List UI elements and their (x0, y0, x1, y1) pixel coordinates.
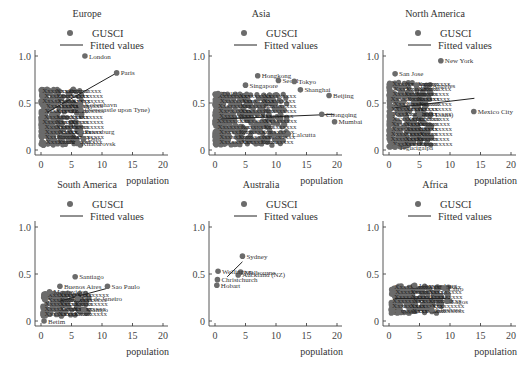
x-tick-label: 15 (302, 159, 312, 170)
y-tick-label: 0 (26, 316, 31, 327)
point-marker-icon (471, 109, 477, 115)
legend: GUSCIFitted values (60, 28, 144, 51)
panel-title: South America (57, 179, 117, 190)
y-tick-label: 1.0 (19, 51, 32, 62)
x-tick-label: 10 (445, 159, 455, 170)
panel-asia: AsiaGUSCIFitted values00.51.005101520pop… (174, 0, 348, 183)
panel-australia: AustraliaGUSCIFitted values00.51.0051015… (174, 171, 348, 354)
x-tick-label: 20 (158, 159, 168, 170)
point-marker-icon (78, 128, 84, 134)
point-label: Betim (48, 318, 66, 326)
legend-label-fitted: Fitted values (264, 211, 318, 222)
point-marker-icon (72, 274, 78, 280)
legend-label-gusci: GUSCI (266, 28, 298, 39)
point-label: Cairo (448, 285, 464, 293)
y-tick-label: 0 (200, 316, 205, 327)
x-tick-label: 5 (417, 330, 422, 341)
y-tick-label: 0 (26, 145, 31, 156)
point-label: Shanghai (304, 86, 330, 94)
panel-title: Africa (422, 179, 448, 190)
y-tick-label: 0 (200, 145, 205, 156)
point-marker-icon (41, 318, 47, 324)
x-tick-label: 5 (417, 159, 422, 170)
point-marker-icon (255, 73, 261, 79)
legend-label-gusci: GUSCI (440, 199, 472, 210)
y-tick-label: 0 (374, 316, 379, 327)
point-marker-icon (414, 82, 420, 88)
point-label: Tokyo (298, 78, 316, 86)
labeled-point: Mexico City (471, 108, 513, 116)
point-label: (St. Louis) (424, 111, 455, 119)
point-marker-icon (114, 70, 120, 76)
x-tick-label: 10 (271, 159, 281, 170)
y-tick-label: 0.5 (19, 269, 32, 280)
labeled-point: Paris (114, 69, 135, 77)
x-tick-label: 20 (332, 159, 342, 170)
x-tick-label: 10 (97, 159, 107, 170)
panel-north-america: North AmericaGUSCIFitted values00.51.005… (348, 0, 522, 183)
panel-africa: AfricaGUSCIFitted values00.51.005101520p… (348, 171, 522, 354)
y-tick-label: 1.0 (193, 51, 206, 62)
x-tick-label: 20 (506, 330, 516, 341)
y-tick-label: 1.0 (19, 222, 32, 233)
point-label: Kinshasa (436, 306, 463, 314)
point-marker-icon (429, 307, 435, 313)
point-marker-icon (441, 285, 447, 291)
point-label: London (89, 53, 111, 61)
y-tick-label: 0.5 (367, 269, 380, 280)
point-label: Calcutta (292, 131, 316, 139)
y-tick-label: 1.0 (367, 222, 380, 233)
point-marker-icon (298, 87, 304, 93)
labeled-point: Santiago (72, 273, 104, 281)
legend: GUSCIFitted values (234, 199, 318, 222)
point-marker-icon (81, 307, 87, 313)
point-marker-icon (78, 107, 84, 113)
point-label: New York (445, 57, 474, 65)
legend: GUSCIFitted values (408, 28, 492, 51)
x-tick-label: 5 (69, 159, 74, 170)
point-label: Paris (121, 69, 135, 77)
y-tick-label: 0 (374, 145, 379, 156)
y-tick-label: 1.0 (193, 222, 206, 233)
legend-label-gusci: GUSCI (92, 199, 124, 210)
legend-dot-icon (415, 201, 421, 207)
labeled-point: Wellington (215, 268, 253, 276)
labeled-point: Shanghai (298, 86, 331, 94)
labeled-point: San Jose (392, 70, 423, 78)
x-tick-label: 0 (213, 330, 218, 341)
point-label: Singapore (250, 82, 278, 90)
point-label: Sao Paulo (111, 283, 140, 291)
x-tick-label: 10 (271, 330, 281, 341)
x-tick-label: 0 (387, 330, 392, 341)
labeled-point: Rio de Janeiro (75, 295, 123, 303)
point-label: Lome (402, 308, 418, 316)
legend-label-fitted: Fitted values (90, 211, 144, 222)
point-label: Lagos (451, 298, 468, 306)
labeled-point: Tegucigalpa (392, 144, 434, 152)
panel-title: Asia (252, 8, 271, 19)
panel-south-america: South AmericaGUSCIFitted values00.51.005… (0, 171, 174, 354)
x-tick-label: 15 (476, 159, 486, 170)
legend-dot-icon (67, 201, 73, 207)
point-marker-icon (292, 79, 298, 85)
point-marker-icon (82, 53, 88, 59)
legend-dot-icon (67, 30, 73, 36)
point-label: Santiago (79, 273, 104, 281)
legend: GUSCIFitted values (408, 199, 492, 222)
y-tick-label: 1.0 (367, 51, 380, 62)
point-label: Khabarovsk (82, 140, 116, 148)
x-tick-label: 20 (332, 330, 342, 341)
x-axis-label: population (474, 346, 517, 357)
labeled-point: London (82, 53, 111, 61)
legend-label-fitted: Fitted values (438, 40, 492, 51)
point-marker-icon (417, 111, 423, 117)
panel-title: North America (405, 8, 465, 19)
point-label: Hobart (221, 282, 240, 290)
scatter-plot: EuropeGUSCIFitted values00.51.005101520p… (0, 0, 174, 183)
y-tick-label: 0.5 (367, 98, 380, 109)
panel-title: Europe (73, 8, 102, 19)
scatter-plot: North AmericaGUSCIFitted values00.51.005… (348, 0, 522, 183)
x-tick-label: 0 (387, 159, 392, 170)
labeled-point: Hobart (214, 282, 240, 290)
y-tick-label: 0.5 (193, 98, 206, 109)
